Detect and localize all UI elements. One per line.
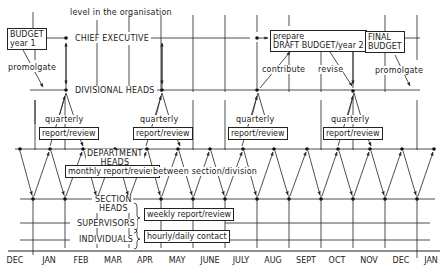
month-oct: OCT (322, 256, 352, 265)
contribute-label: contribute (262, 65, 305, 74)
month-jan: JAN (34, 256, 64, 265)
weekly-report-review-box: weekly report/review (144, 208, 234, 221)
hourly-daily-contact-box: hourly/daily contact (144, 230, 230, 243)
budget-year1-line2: year 1 (10, 39, 44, 48)
month-aug: AUG (258, 256, 288, 265)
quarterly-label-4: quarterly (331, 115, 369, 124)
quarterly-label-2: quarterly (140, 115, 178, 124)
quarterly-report-review-box-1: report/review (39, 127, 99, 140)
revise-label: revise (318, 65, 343, 74)
quarterly-label-1: quarterly (45, 115, 83, 124)
level-chief-executive: CHIEF EXECUTIVE (73, 34, 151, 43)
section-heads-line1: SECTION (95, 195, 132, 204)
month-dec-start: DEC (0, 256, 30, 265)
promolgate-label-left: promolgate (8, 63, 56, 72)
level-divisional-heads: DIVISIONAL HEADS (73, 86, 157, 95)
month-mar: MAR (98, 256, 128, 265)
quarterly-label-3: quarterly (236, 115, 274, 124)
final-budget-box: FINAL BUDGET (365, 31, 405, 53)
draft-budget-line2: DRAFT BUDGET/year 2 (273, 41, 364, 50)
draft-budget-line1: prepare (273, 32, 364, 41)
final-budget-line2: BUDGET (368, 42, 402, 51)
level-section-heads: SECTION HEADS (94, 195, 133, 213)
promolgate-label-right: promolgate (375, 66, 423, 75)
month-nov: NOV (354, 256, 384, 265)
month-feb: FEB (66, 256, 96, 265)
level-individuals: INDIVIDUALS (77, 235, 135, 244)
level-supervisors: SUPERVISORS (75, 219, 137, 228)
budget-year1-line1: BUDGET (10, 30, 44, 39)
final-budget-line1: FINAL (368, 33, 402, 42)
quarterly-report-review-box-4: report/review (323, 127, 383, 140)
quarterly-report-review-box-2: report/review (133, 127, 193, 140)
draft-budget-box: prepare DRAFT BUDGET/year 2 (270, 30, 367, 52)
budget-year1-box: BUDGET year 1 (7, 28, 47, 50)
between-section-division-label: between section/division (152, 167, 258, 176)
month-jan-end: JAN (416, 256, 443, 265)
department-heads-line1: DEPARTMENT (87, 149, 143, 158)
month-june: JUNE (195, 256, 225, 265)
budget-cycle-diagram: level in the organisation CHIEF EXECUTIV… (0, 0, 443, 273)
month-apr: APR (130, 256, 160, 265)
section-heads-line2: HEADS (95, 204, 132, 213)
month-dec: DEC (386, 256, 416, 265)
axis-title: level in the organisation (70, 8, 172, 17)
month-sept: SEPT (291, 256, 321, 265)
monthly-report-review-box: monthly report/review (65, 165, 160, 178)
month-july: JULY (226, 256, 256, 265)
month-may: MAY (162, 256, 192, 265)
quarterly-report-review-box-3: report/review (228, 127, 288, 140)
